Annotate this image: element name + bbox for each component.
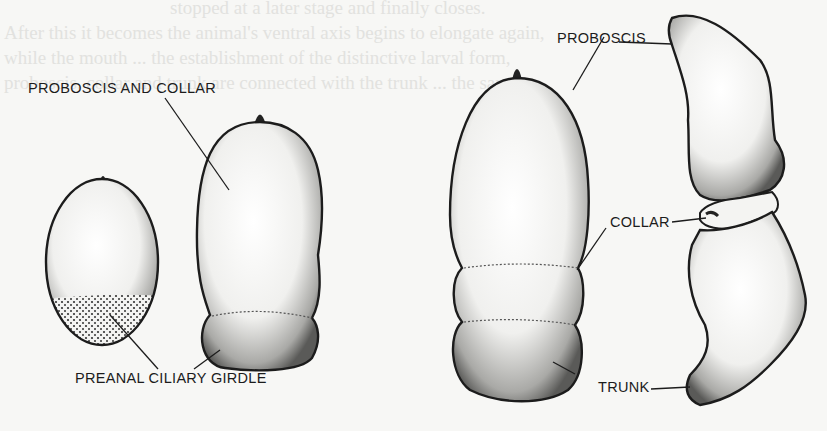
label-collar: COLLAR [610, 214, 670, 230]
label-trunk: TRUNK [598, 379, 649, 395]
label-proboscis: PROBOSCIS [557, 30, 646, 46]
larva-stage-3 [450, 69, 589, 401]
ciliary-girdle-band [40, 295, 165, 350]
label-proboscis-and-collar: PROBOSCIS AND COLLAR [28, 80, 216, 96]
label-preanal-ciliary-girdle: PREANAL CILIARY GIRDLE [75, 370, 267, 386]
larval-development-figure [0, 0, 827, 431]
larva-stage-4 [669, 16, 806, 405]
larva-stage-1 [40, 176, 165, 350]
larva-stage-2 [197, 115, 322, 371]
